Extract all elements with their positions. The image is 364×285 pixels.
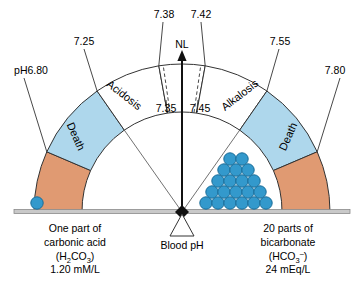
ball [200,197,212,209]
ball [224,197,236,209]
fulcrum-label: Blood pH [160,239,203,251]
right-caption-line1: 20 parts of [263,222,313,234]
tick-label-780: 7.80 [325,64,346,76]
ball [236,153,248,165]
nl-label: NL [175,38,189,50]
tick-leader-680 [24,78,47,152]
tick-label-755: 7.55 [270,35,291,47]
formula-part-end: ) [304,250,308,262]
tick-label-735: 7.35 [156,102,177,114]
ball [248,197,260,209]
ball [242,186,254,198]
ball [206,186,218,198]
right-pan-caption: 20 parts of bicarbonate (HCO3–) 24 mEq/L [261,222,316,275]
formula-part-end: ) [91,250,95,262]
tick-label-725: 7.25 [74,35,95,47]
fulcrum-triangle [170,214,194,236]
ball-carbonic-acid [31,197,43,209]
left-caption-line1: One part of [49,222,102,234]
left-pan-balls [31,197,43,209]
ball [218,186,230,198]
tick-leader-738 [159,22,163,66]
formula-part-mid: CO [71,250,87,262]
ball [260,197,272,209]
tick-leader-725 [84,49,97,91]
right-pan-balls [200,153,272,209]
ball [218,164,230,176]
ball [242,164,254,176]
left-pan-caption: One part of carbonic acid (H2CO3) 1.20 m… [44,222,106,275]
pointer-arrowhead [177,50,186,61]
left-caption-concentration: 1.20 mM/L [50,263,100,275]
tick-label-742: 7.42 [191,8,212,20]
right-caption-concentration: 24 mEq/L [266,263,311,275]
tick-label-ph680: pH6.80 [14,64,48,76]
diagram-canvas: Death Acidosis Alkalosis Death NL pH6.80… [0,0,364,285]
ball [254,186,266,198]
formula-part-base: (HCO [269,250,296,262]
ball [212,197,224,209]
tick-leader-755 [267,49,279,91]
ball [230,164,242,176]
tick-label-745: 7.45 [190,102,211,114]
ball [236,175,248,187]
ball [212,175,224,187]
tick-leader-780 [317,78,340,152]
ball [224,153,236,165]
left-caption-line2: carbonic acid [44,236,106,248]
formula-part-base: (H [56,250,67,262]
ball [236,197,248,209]
tick-leader-742 [201,22,205,66]
ball [230,186,242,198]
blood-ph-balance-diagram: Death Acidosis Alkalosis Death NL pH6.80… [0,0,364,285]
radial-ray-left [124,130,182,212]
tick-label-738: 7.38 [154,8,175,20]
right-caption-line2: bicarbonate [261,236,316,248]
ball [224,175,236,187]
ball [248,175,260,187]
